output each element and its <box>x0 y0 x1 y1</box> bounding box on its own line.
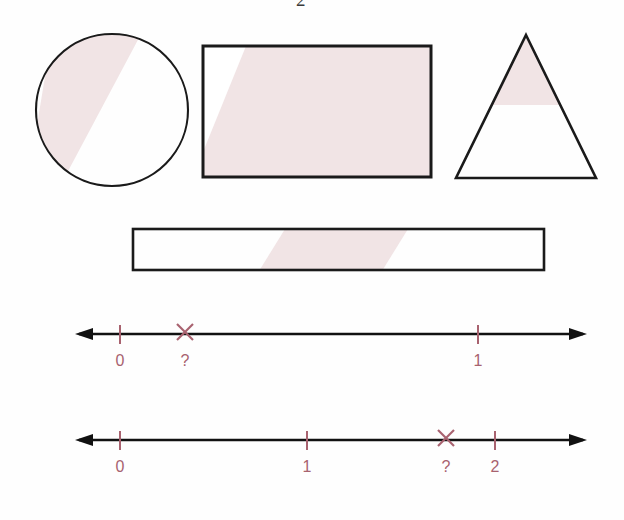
number-line-1-label-1: 1 <box>474 352 483 370</box>
number-line-2 <box>75 430 587 450</box>
triangle-shape <box>450 33 602 178</box>
number-line-2-left-arrowhead <box>75 434 93 446</box>
bar-shaded-region <box>259 229 408 271</box>
worksheet-canvas: 2 <box>0 0 624 520</box>
number-line-1-left-arrowhead <box>75 328 93 340</box>
rectangle-shape <box>203 46 431 177</box>
circle-shape <box>28 34 188 190</box>
figures-svg <box>0 0 624 520</box>
number-line-2-cross-marker <box>438 430 454 446</box>
number-line-2-label-0: 0 <box>116 458 125 476</box>
number-line-1-label-question: ? <box>181 352 190 370</box>
number-line-2-label-2: 2 <box>491 458 500 476</box>
number-line-1-cross-marker <box>177 324 193 340</box>
triangle-shaded-region <box>450 33 602 105</box>
number-line-2-label-question: ? <box>442 458 451 476</box>
number-line-2-right-arrowhead <box>569 434 587 446</box>
number-line-1-label-0: 0 <box>116 352 125 370</box>
number-line-2-label-1: 1 <box>303 458 312 476</box>
number-line-1-right-arrowhead <box>569 328 587 340</box>
number-line-1 <box>75 324 587 344</box>
circle-shaded-region <box>28 34 140 190</box>
bar-shape <box>133 229 544 271</box>
